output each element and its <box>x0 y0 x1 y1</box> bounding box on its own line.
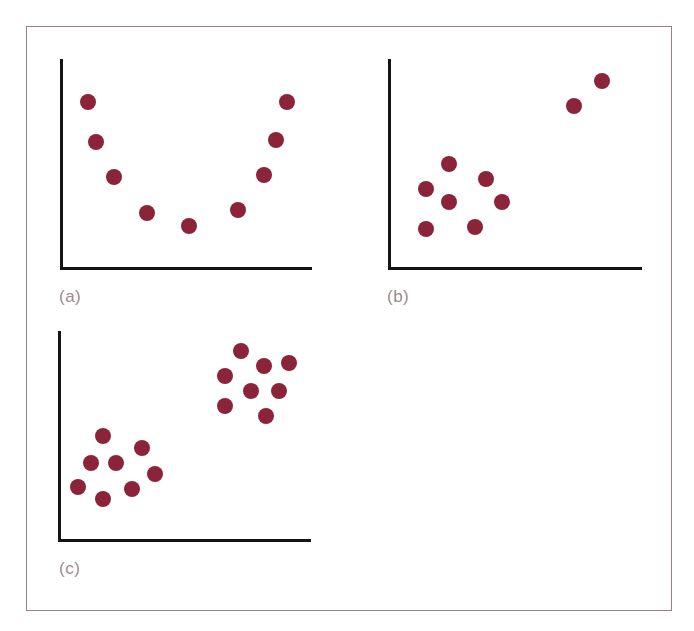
x-axis <box>388 267 642 270</box>
panel-label-b: (b) <box>387 288 409 305</box>
panel-label-c: (c) <box>59 560 80 577</box>
data-point <box>243 383 259 399</box>
data-point <box>441 194 457 210</box>
data-point <box>217 398 233 414</box>
data-point <box>594 73 610 89</box>
data-point <box>124 481 140 497</box>
data-point <box>271 383 287 399</box>
data-point <box>134 440 150 456</box>
data-point <box>95 428 111 444</box>
data-point <box>258 408 274 424</box>
data-point <box>478 171 494 187</box>
data-point <box>566 98 582 114</box>
x-axis <box>60 267 312 270</box>
y-axis <box>58 331 61 541</box>
data-point <box>256 167 272 183</box>
data-point <box>279 94 295 110</box>
data-point <box>147 466 163 482</box>
data-point <box>108 455 124 471</box>
data-point <box>106 169 122 185</box>
data-point <box>139 205 155 221</box>
data-point <box>418 181 434 197</box>
data-point <box>467 219 483 235</box>
data-point <box>70 479 86 495</box>
panel-label-a: (a) <box>59 288 81 305</box>
data-point <box>281 355 297 371</box>
data-point <box>217 368 233 384</box>
data-point <box>256 358 272 374</box>
data-point <box>233 343 249 359</box>
data-point <box>418 221 434 237</box>
x-axis <box>58 539 311 542</box>
y-axis <box>60 59 63 269</box>
y-axis <box>388 59 391 269</box>
data-point <box>230 202 246 218</box>
data-point <box>83 455 99 471</box>
data-point <box>88 134 104 150</box>
data-point <box>494 194 510 210</box>
data-point <box>95 491 111 507</box>
data-point <box>441 156 457 172</box>
data-point <box>181 218 197 234</box>
